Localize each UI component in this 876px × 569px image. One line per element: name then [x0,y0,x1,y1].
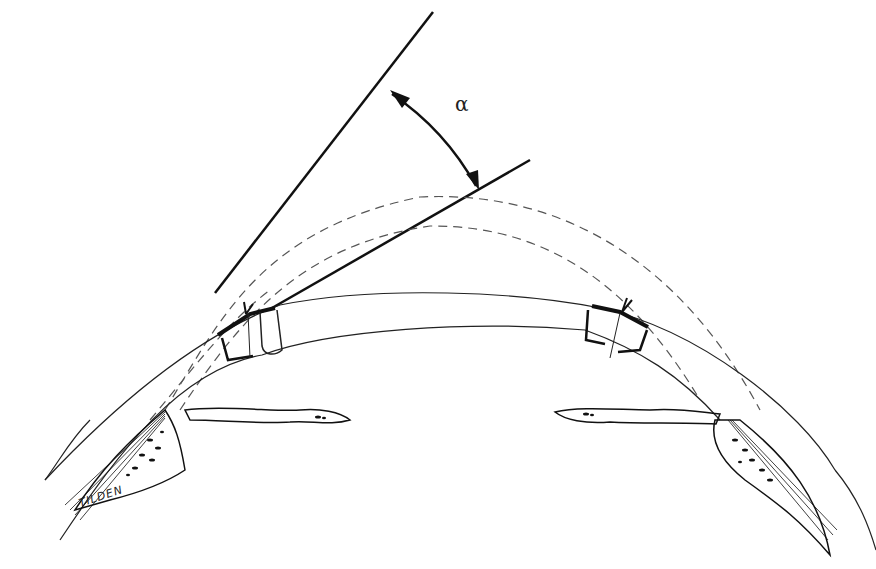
suture-knot-right-icon [622,298,632,312]
iris-segments [185,408,720,424]
iris-right [555,409,720,424]
iris-left [185,408,350,423]
dashed-contour-inner [180,226,700,410]
sclera-outer-left [45,420,90,480]
tangent-line-upper [215,12,433,293]
sclera-outer-right [835,470,876,550]
angle-tissue-right [714,420,837,555]
cornea-posterior-surface [60,326,720,540]
tangent-lines [215,12,530,308]
corneal-surfaces [45,293,876,550]
dashed-contours [150,197,760,420]
angle-alpha-label: α [455,92,469,116]
tangent-line-lower [272,160,530,308]
cornea-diagram [0,0,876,569]
cornea-anterior-surface [45,293,835,480]
incision-right [586,298,648,358]
